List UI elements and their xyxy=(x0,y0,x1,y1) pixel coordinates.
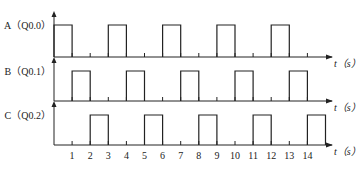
pulse xyxy=(163,25,181,57)
pulse xyxy=(271,25,289,57)
pulse xyxy=(289,71,307,101)
time-axis-arrow-icon xyxy=(326,143,333,148)
y-axis-arrow-icon xyxy=(52,11,57,17)
tick-label: 5 xyxy=(142,150,147,161)
pulse xyxy=(307,115,325,145)
tick-label: 12 xyxy=(266,150,276,161)
tick-label: 7 xyxy=(178,150,183,161)
tick-label: 6 xyxy=(160,150,165,161)
tick-label: 4 xyxy=(124,150,129,161)
tick-label: 11 xyxy=(248,150,258,161)
pulse xyxy=(199,115,217,145)
pulse xyxy=(217,25,235,57)
tick-label: 13 xyxy=(284,150,294,161)
y-axis-arrow-icon xyxy=(52,101,57,107)
pulse xyxy=(108,25,126,57)
pulse xyxy=(54,25,72,57)
timing-diagram: A（Q0.0）t（s）B（Q0.1）t（s）C（Q0.2）t（s）1234567… xyxy=(0,0,362,176)
pulse xyxy=(235,71,253,101)
tick-label: 1 xyxy=(70,150,75,161)
tick-label: 3 xyxy=(106,150,111,161)
pulse xyxy=(72,71,90,101)
time-unit-label: t（s） xyxy=(334,146,361,157)
pulse xyxy=(181,71,199,101)
signal-label: A（Q0.0） xyxy=(4,20,51,31)
pulse xyxy=(90,115,108,145)
tick-label: 10 xyxy=(230,150,240,161)
tick-label: 14 xyxy=(302,150,312,161)
signal-label: B（Q0.1） xyxy=(5,66,51,77)
time-unit-label: t（s） xyxy=(334,58,361,69)
time-unit-label: t（s） xyxy=(334,102,361,113)
signal-label: C（Q0.2） xyxy=(5,110,51,121)
tick-label: 8 xyxy=(196,150,201,161)
time-axis-arrow-icon xyxy=(326,99,333,104)
y-axis-arrow-icon xyxy=(52,57,57,63)
pulse xyxy=(126,71,144,101)
pulse xyxy=(145,115,163,145)
tick-label: 9 xyxy=(214,150,219,161)
time-axis-arrow-icon xyxy=(326,55,333,60)
tick-label: 2 xyxy=(88,150,93,161)
pulse xyxy=(253,115,271,145)
